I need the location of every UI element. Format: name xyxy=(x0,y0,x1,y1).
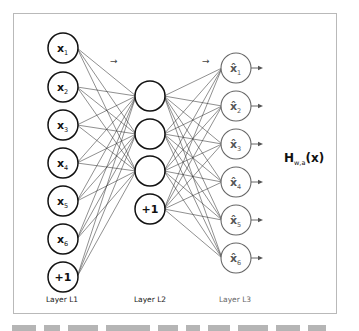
node-label: +1 xyxy=(55,271,72,284)
node-l2-1 xyxy=(135,81,165,111)
output-function-label: Hw,a(x) xyxy=(284,151,324,167)
layer-label-l3: Layer L3 xyxy=(219,295,251,304)
flow-arrow-icon: → xyxy=(202,56,210,66)
flow-arrow-icon: → xyxy=(110,56,118,66)
layer-label-l2: Layer L2 xyxy=(134,295,166,304)
node-label: +1 xyxy=(142,203,159,216)
layer-labels: Layer L1Layer L2Layer L3 xyxy=(46,295,251,304)
layer-label-l1: Layer L1 xyxy=(46,295,78,304)
figure-caption-cropped xyxy=(12,325,347,331)
node-l2-2 xyxy=(135,119,165,149)
network-diagram: →→ x1x2x3x4x5x6+1+1x̂1x̂2x̂3x̂4x̂5x̂6 La… xyxy=(0,0,359,331)
node-l2-3 xyxy=(135,156,165,186)
